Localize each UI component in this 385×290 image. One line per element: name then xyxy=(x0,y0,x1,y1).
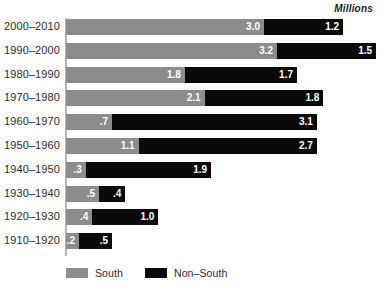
bar-segment-non-south[interactable]: 1.8 xyxy=(205,90,324,106)
bar-row-label: 1930–1940 xyxy=(0,185,60,202)
bar-stack: .31.9 xyxy=(66,162,211,178)
plot-area: 2000–20103.01.21990–20003.21.51980–19901… xyxy=(0,18,385,258)
bar-value-non-south: 1.2 xyxy=(325,19,339,35)
bar-row: 1950–19601.12.7 xyxy=(0,137,385,161)
bar-segment-south[interactable]: .7 xyxy=(66,114,112,130)
bar-segment-non-south[interactable]: 1.5 xyxy=(277,43,376,59)
bar-segment-non-south[interactable]: 1.2 xyxy=(264,19,343,35)
bar-value-non-south: 1.9 xyxy=(193,162,207,178)
bar-row-label: 2000–2010 xyxy=(0,18,60,35)
bar-value-south: 1.8 xyxy=(167,67,181,83)
bar-segment-non-south[interactable]: .4 xyxy=(99,186,125,202)
bar-value-south: 2.1 xyxy=(187,90,201,106)
bar-value-non-south: 2.7 xyxy=(299,138,313,154)
bar-row: 1990–20003.21.5 xyxy=(0,42,385,66)
bar-value-non-south: 1.0 xyxy=(140,209,154,225)
bar-segment-non-south[interactable]: 1.9 xyxy=(86,162,211,178)
bar-value-south: 3.0 xyxy=(246,19,260,35)
bar-value-south: .2 xyxy=(67,233,75,249)
bar-segment-south[interactable]: 2.1 xyxy=(66,90,205,106)
bar-segment-south[interactable]: 1.8 xyxy=(66,67,185,83)
bar-value-non-south: .5 xyxy=(100,233,108,249)
bar-segment-non-south[interactable]: 1.0 xyxy=(92,209,158,225)
bar-value-south: .7 xyxy=(100,114,108,130)
bar-stack: .5.4 xyxy=(66,186,125,202)
bar-segment-south[interactable]: .2 xyxy=(66,233,79,249)
bar-value-non-south: 1.5 xyxy=(358,43,372,59)
units-label: Millions xyxy=(334,3,373,14)
bar-segment-south[interactable]: .5 xyxy=(66,186,99,202)
chart-legend: South Non–South xyxy=(66,267,227,279)
bar-stack: 3.21.5 xyxy=(66,43,376,59)
bar-row: 1910–1920.2.5 xyxy=(0,232,385,256)
bar-row-label: 1920–1930 xyxy=(0,208,60,225)
bar-stack: .73.1 xyxy=(66,114,317,130)
bar-value-south: 1.1 xyxy=(121,138,135,154)
bar-row: 1920–1930.41.0 xyxy=(0,208,385,232)
bar-stack: 1.12.7 xyxy=(66,138,317,154)
bar-segment-south[interactable]: .3 xyxy=(66,162,86,178)
bar-stack: .2.5 xyxy=(66,233,112,249)
bar-segment-south[interactable]: 1.1 xyxy=(66,138,139,154)
bar-value-south: .4 xyxy=(80,209,88,225)
bar-row-label: 1960–1970 xyxy=(0,113,60,130)
bar-row-label: 1940–1950 xyxy=(0,161,60,178)
bar-row: 1980–19901.81.7 xyxy=(0,66,385,90)
bar-value-south: .3 xyxy=(73,162,81,178)
bar-row: 1940–1950.31.9 xyxy=(0,161,385,185)
bar-stack: 2.11.8 xyxy=(66,90,323,106)
legend-swatch-non-south-icon xyxy=(145,268,167,278)
bar-segment-south[interactable]: .4 xyxy=(66,209,92,225)
legend-swatch-south-icon xyxy=(66,268,88,278)
bar-row: 2000–20103.01.2 xyxy=(0,18,385,42)
bar-row: 1960–1970.73.1 xyxy=(0,113,385,137)
bar-segment-non-south[interactable]: 1.7 xyxy=(185,67,297,83)
bar-value-non-south: .4 xyxy=(113,186,121,202)
stacked-bar-chart: Millions 2000–20103.01.21990–20003.21.51… xyxy=(0,0,385,290)
bar-value-non-south: 1.7 xyxy=(279,67,293,83)
bar-segment-south[interactable]: 3.0 xyxy=(66,19,264,35)
bar-segment-south[interactable]: 3.2 xyxy=(66,43,277,59)
legend-label-south: South xyxy=(95,267,123,279)
bar-segment-non-south[interactable]: .5 xyxy=(79,233,112,249)
legend-item-non-south[interactable]: Non–South xyxy=(145,267,227,279)
bar-row-label: 1990–2000 xyxy=(0,42,60,59)
bar-segment-non-south[interactable]: 2.7 xyxy=(139,138,317,154)
bar-value-south: .5 xyxy=(87,186,95,202)
bar-value-non-south: 1.8 xyxy=(305,90,319,106)
bar-stack: 3.01.2 xyxy=(66,19,343,35)
bar-row: 1970–19802.11.8 xyxy=(0,89,385,113)
bar-row-label: 1980–1990 xyxy=(0,66,60,83)
bar-value-non-south: 3.1 xyxy=(299,114,313,130)
bar-segment-non-south[interactable]: 3.1 xyxy=(112,114,317,130)
bar-value-south: 3.2 xyxy=(259,43,273,59)
cropped-title-sliver xyxy=(0,0,385,6)
legend-label-non-south: Non–South xyxy=(174,267,227,279)
bar-row-label: 1910–1920 xyxy=(0,232,60,249)
bar-row-label: 1950–1960 xyxy=(0,137,60,154)
bar-row: 1930–1940.5.4 xyxy=(0,185,385,209)
legend-item-south[interactable]: South xyxy=(66,267,123,279)
bar-row-label: 1970–1980 xyxy=(0,89,60,106)
bar-stack: 1.81.7 xyxy=(66,67,297,83)
bar-stack: .41.0 xyxy=(66,209,158,225)
